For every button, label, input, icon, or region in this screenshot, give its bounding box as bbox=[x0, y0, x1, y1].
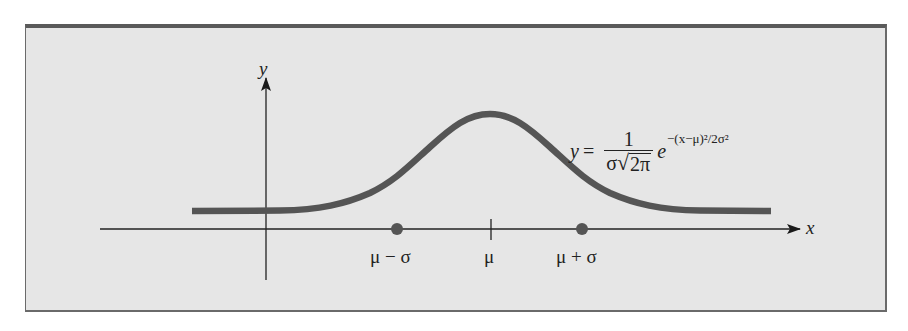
formula-exponential: e −(x−μ)²/2σ² bbox=[657, 140, 729, 163]
formula-sqrt: √ 2π bbox=[617, 152, 651, 174]
tick-label-mu-plus-sigma: μ + σ bbox=[556, 246, 597, 268]
formula-exponent: −(x−μ)²/2σ² bbox=[667, 131, 729, 147]
point-mu-minus-sigma bbox=[391, 223, 403, 235]
radical-icon: √ bbox=[617, 152, 629, 174]
formula-base: e bbox=[657, 140, 666, 163]
formula-numerator: 1 bbox=[620, 128, 638, 150]
y-axis-label: y bbox=[259, 58, 267, 80]
gaussian-formula: y = 1 σ √ 2π e −(x−μ)²/2σ² bbox=[570, 128, 729, 175]
formula-sigma: σ bbox=[606, 151, 617, 175]
normal-curve-diagram bbox=[0, 0, 908, 331]
x-axis-label: x bbox=[806, 217, 814, 239]
point-mu-plus-sigma bbox=[576, 223, 588, 235]
formula-denominator: σ √ 2π bbox=[604, 150, 653, 175]
tick-label-mu-minus-sigma: μ − σ bbox=[370, 246, 411, 268]
formula-lhs: y bbox=[570, 140, 579, 163]
formula-fraction: 1 σ √ 2π bbox=[604, 128, 653, 175]
formula-equals: = bbox=[583, 140, 594, 163]
formula-radicand: 2π bbox=[629, 153, 651, 174]
tick-label-mu: μ bbox=[484, 246, 494, 268]
